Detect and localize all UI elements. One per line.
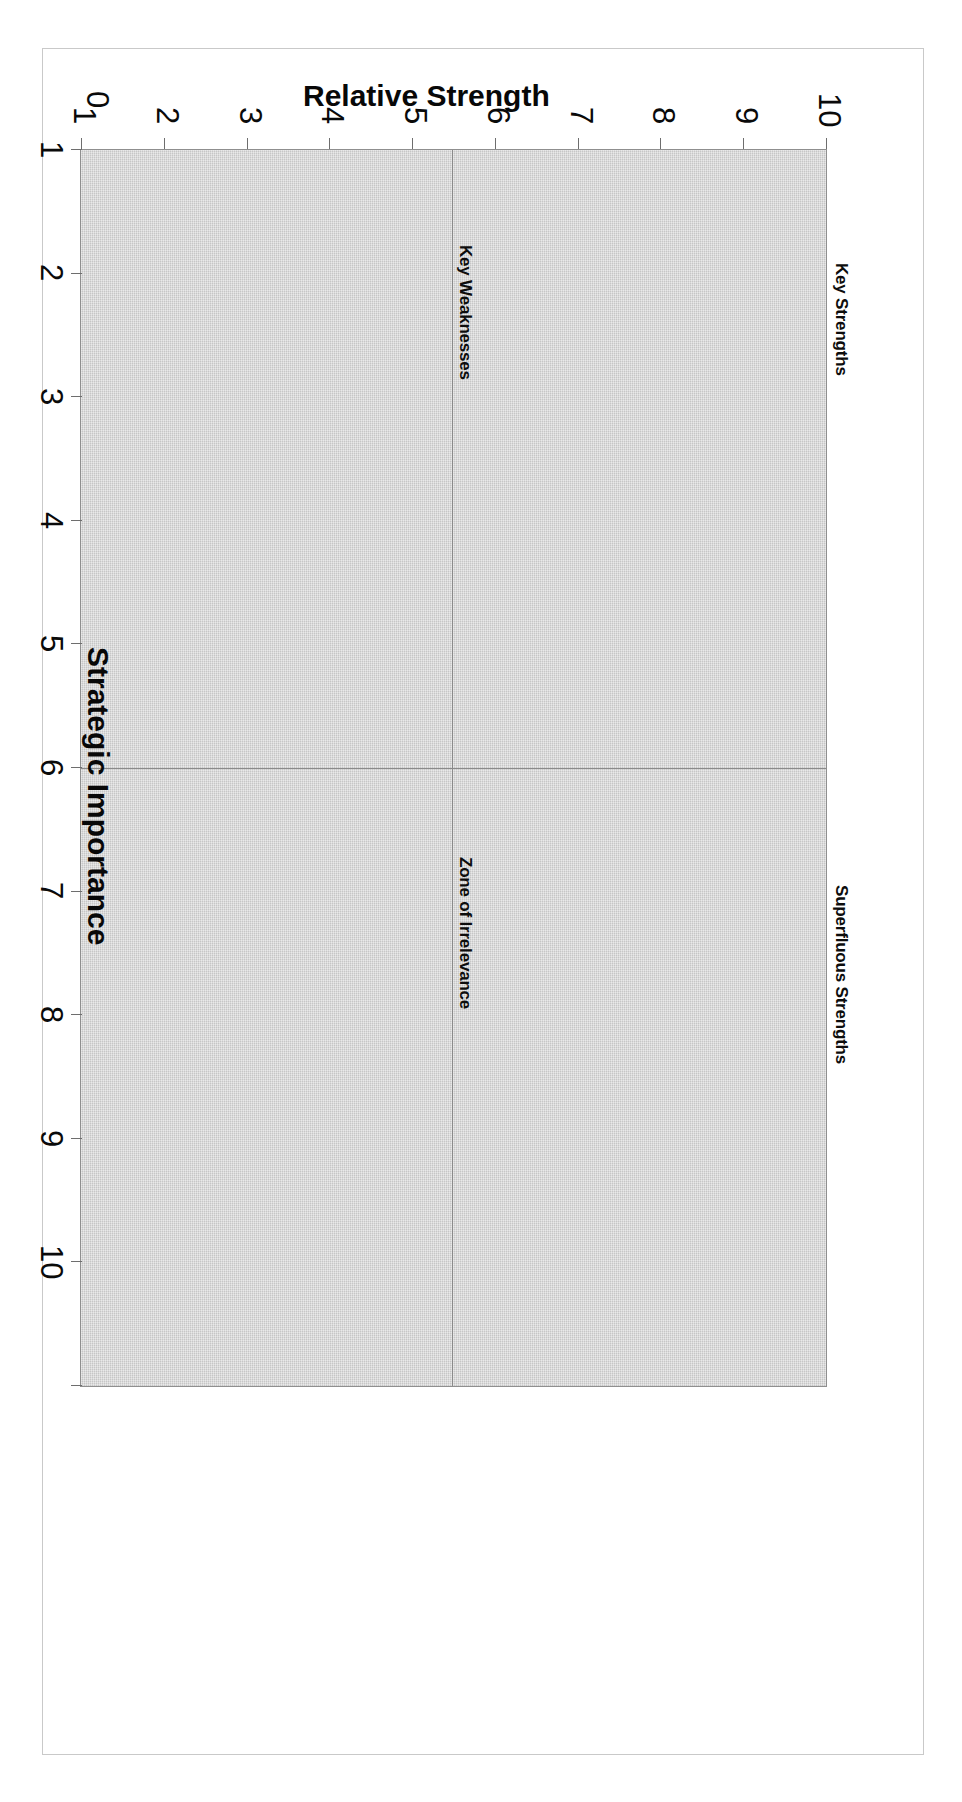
x-tick-label: 2 <box>33 264 69 281</box>
y-tick <box>81 138 82 149</box>
x-tick-label: 5 <box>33 635 69 652</box>
x-tick <box>71 273 82 274</box>
x-tick-label: 1 <box>33 141 69 158</box>
y-axis-title: Relative Strength <box>303 79 550 113</box>
x-tick-label: 6 <box>33 759 69 776</box>
y-tick <box>743 138 744 149</box>
y-axis <box>82 138 827 149</box>
x-tick-label: 7 <box>33 882 69 899</box>
x-tick <box>71 520 82 521</box>
y-tick <box>164 138 165 149</box>
quadrant-label-key-strengths: Key Strengths <box>831 263 851 376</box>
x-tick <box>71 1385 82 1386</box>
y-tick <box>247 138 248 149</box>
y-tick-label: 7 <box>563 107 599 124</box>
y-tick-label: 8 <box>645 107 681 124</box>
plot-area <box>80 149 827 1387</box>
rotated-figure-canvas: Key Strengths Superfluous Strengths Key … <box>0 0 962 1802</box>
y-tick <box>495 138 496 149</box>
x-tick-label: 8 <box>33 1006 69 1023</box>
quadrant-label-zone-of-irrelevance: Zone of Irrelevance <box>455 857 475 1009</box>
quadrant-divider-horizontal <box>453 150 454 1386</box>
x-tick <box>71 396 82 397</box>
y-tick <box>412 138 413 149</box>
y-tick-label: 9 <box>728 107 764 124</box>
x-axis-title: Strategic Importance <box>81 647 115 945</box>
y-tick <box>660 138 661 149</box>
y-tick-label: 1 <box>66 107 102 124</box>
quadrant-divider-vertical <box>81 768 826 769</box>
x-tick <box>71 1014 82 1015</box>
x-tick <box>71 643 82 644</box>
x-tick-label: 10 <box>33 1245 69 1279</box>
x-tick-label: 0 <box>79 91 115 108</box>
x-tick-label: 4 <box>33 512 69 529</box>
y-tick <box>826 138 827 149</box>
y-tick <box>578 138 579 149</box>
x-tick-label: 9 <box>33 1130 69 1147</box>
quadrant-label-superfluous-strengths: Superfluous Strengths <box>831 885 851 1064</box>
x-tick-label: 3 <box>33 388 69 405</box>
y-tick-label: 3 <box>232 107 268 124</box>
y-tick-label: 2 <box>149 107 185 124</box>
x-tick <box>71 149 82 150</box>
quadrant-label-key-weaknesses: Key Weaknesses <box>455 245 475 380</box>
x-tick <box>71 1261 82 1262</box>
x-tick <box>71 1138 82 1139</box>
y-tick-label: 10 <box>811 93 847 127</box>
figure-frame: Key Strengths Superfluous Strengths Key … <box>42 48 924 1755</box>
y-tick <box>329 138 330 149</box>
